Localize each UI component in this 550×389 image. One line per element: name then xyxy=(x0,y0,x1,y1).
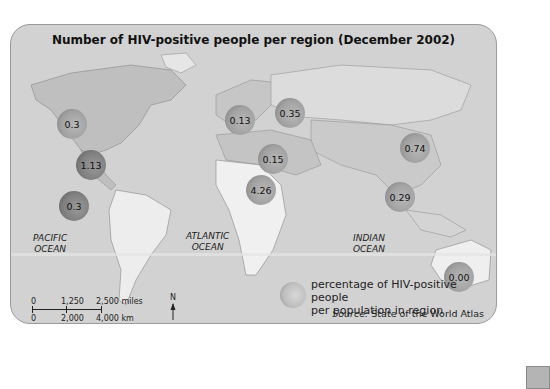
map-frame: Number of HIV-positive people per region… xyxy=(10,24,497,324)
scale-bar: 0 1,250 2,500 miles 0 2,000 4,000 km xyxy=(31,297,161,324)
region-bubble-north-africa-middle-east: 0.15 xyxy=(258,144,288,174)
region-bubble-north-america: 0.3 xyxy=(57,109,87,139)
indian-ocean-label: INDIAN OCEAN xyxy=(353,233,385,255)
region-bubble-western-europe: 0.13 xyxy=(225,105,255,135)
north-arrow-icon xyxy=(169,302,177,320)
region-bubble-south-asia: 0.29 xyxy=(385,182,415,212)
map-title: Number of HIV-positive people per region… xyxy=(11,33,496,47)
corner-box xyxy=(526,366,550,389)
region-bubble-east-asia: 0.74 xyxy=(400,133,430,163)
region-bubble-sub-saharan-africa: 4.26 xyxy=(246,175,276,205)
north-arrow: N xyxy=(169,293,177,322)
source-credit: Source: State of the World Atlas xyxy=(332,308,484,319)
atlantic-ocean-label: ATLANTIC OCEAN xyxy=(186,231,229,253)
region-bubble-latin-america: 0.3 xyxy=(59,191,89,221)
legend-pie-icon xyxy=(280,282,306,308)
region-bubble-eastern-europe: 0.35 xyxy=(275,98,305,128)
region-bubble-caribbean: 1.13 xyxy=(76,150,106,180)
pacific-ocean-label: PACIFIC OCEAN xyxy=(33,233,67,255)
